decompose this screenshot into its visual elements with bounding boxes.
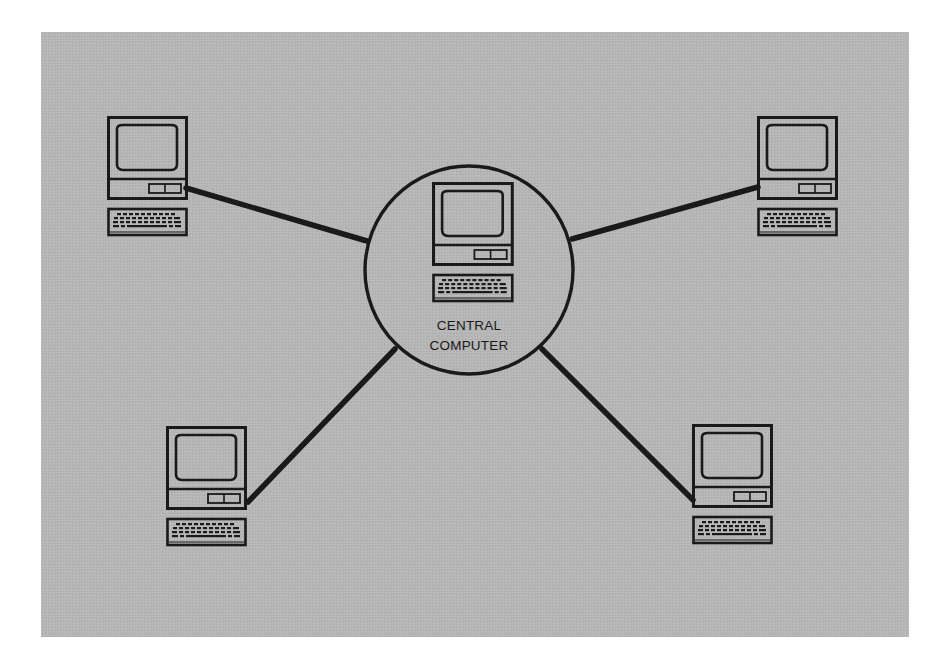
central-label-line1: CENTRAL [437, 318, 502, 333]
star-network-diagram: CENTRAL COMPUTER [0, 0, 942, 671]
central-label-line2: COMPUTER [430, 338, 509, 353]
